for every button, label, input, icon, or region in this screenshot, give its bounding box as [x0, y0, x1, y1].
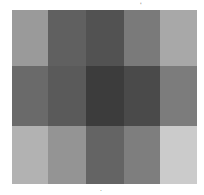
- grid-cell: [160, 126, 197, 184]
- grid-cell: [86, 126, 124, 184]
- top-mark: ': [140, 2, 142, 8]
- grid-cell: [12, 66, 48, 126]
- grid-cell: [160, 66, 197, 126]
- grid-cell: [124, 66, 160, 126]
- grid-cell: [86, 10, 124, 66]
- grid-cell: [124, 126, 160, 184]
- grid-cell: [48, 66, 86, 126]
- grid-cell: [48, 126, 86, 184]
- grayscale-grid: [12, 10, 197, 184]
- grid-cell: [160, 10, 197, 66]
- grid-cell: [124, 10, 160, 66]
- bottom-mark: .: [100, 186, 102, 192]
- grid-cell: [12, 126, 48, 184]
- grid-cell: [12, 10, 48, 66]
- grid-cell: [48, 10, 86, 66]
- grid-cell: [86, 66, 124, 126]
